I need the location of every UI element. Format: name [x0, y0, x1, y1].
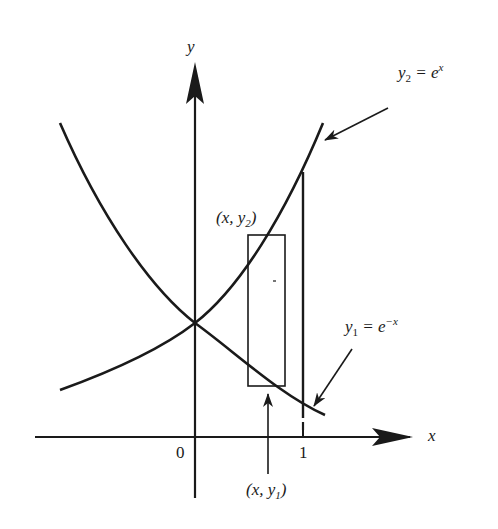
y2-name: y [398, 63, 406, 82]
pointer-y2-curve [325, 108, 388, 140]
y1-exponent: −x [386, 315, 398, 327]
y1-equation-label: y1 = e−x [345, 318, 398, 335]
y2-exponent: x [439, 61, 444, 73]
pointer-y1-curve [314, 349, 352, 406]
tick-label-1: 1 [299, 444, 308, 461]
y1-equals: = e [358, 317, 386, 336]
y-axis [186, 62, 204, 498]
y-axis-label: y [187, 38, 195, 55]
top-point-label: (x, y2) [216, 209, 256, 226]
bottom-point-label: (x, y1) [246, 481, 286, 498]
top-point-close: ) [251, 208, 257, 227]
x-axis [35, 428, 413, 446]
y1-name: y [345, 317, 353, 336]
bottom-point-open: (x, y [246, 480, 275, 499]
y2-equals: = e [411, 63, 439, 82]
curve-y2-exp-x [60, 123, 323, 390]
bottom-point-close: ) [281, 480, 287, 499]
origin-label: 0 [176, 444, 185, 461]
x-axis-label: x [428, 427, 436, 444]
y2-equation-label: y2 = ex [398, 64, 443, 81]
top-point-open: (x, y [216, 208, 245, 227]
